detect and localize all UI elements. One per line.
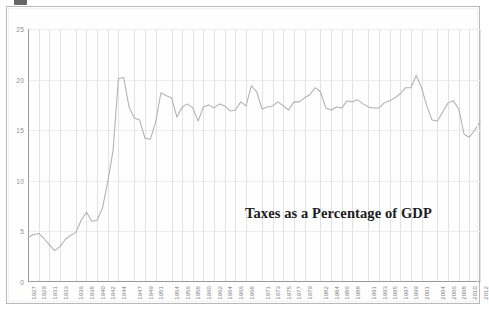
- x-tick-label: 1979: [307, 286, 313, 300]
- y-tick-label: 5: [20, 228, 24, 235]
- x-tick-label: 1958: [195, 286, 201, 300]
- x-tick-label: 1929: [41, 286, 47, 300]
- x-tick-label: 1988: [355, 286, 361, 300]
- x-tick-label: 1947: [137, 286, 143, 300]
- x-tick-label: 1942: [110, 286, 116, 300]
- data-series-line: [28, 29, 480, 282]
- x-tick-label: 1954: [174, 286, 180, 300]
- chart-figure: 0510152025 19271929193119331936193819401…: [0, 0, 489, 311]
- x-tick-label: 2012: [483, 286, 489, 300]
- x-tick-label: 1984: [334, 286, 340, 300]
- x-tick-label: 2006: [451, 286, 457, 300]
- y-tick-label: 10: [16, 177, 24, 184]
- x-tick-label: 1964: [227, 286, 233, 300]
- gridline-vertical: [480, 29, 481, 282]
- y-tick-label: 20: [16, 76, 24, 83]
- x-tick-label: 1931: [52, 286, 58, 300]
- series-path: [28, 76, 480, 251]
- y-tick-label: 25: [16, 26, 24, 33]
- x-tick-label: 1956: [185, 286, 191, 300]
- y-tick-label: 0: [20, 279, 24, 286]
- x-tick-label: 1949: [148, 286, 154, 300]
- x-tick-label: 1971: [265, 286, 271, 300]
- chart-frame: 0510152025 19271929193119331936193819401…: [6, 6, 480, 304]
- x-tick-label: 2008: [461, 286, 467, 300]
- x-tick-label: 1927: [31, 286, 37, 300]
- x-tick-label: 1951: [158, 286, 164, 300]
- scan-artifact: [14, 0, 27, 5]
- x-tick-label: 1936: [78, 286, 84, 300]
- x-tick-label: 2004: [440, 286, 446, 300]
- x-tick-label: 1933: [63, 286, 69, 300]
- x-tick-label: 1966: [238, 286, 244, 300]
- x-tick-label: 2010: [472, 286, 478, 300]
- x-tick-label: 1973: [275, 286, 281, 300]
- x-tick-label: 1977: [296, 286, 302, 300]
- x-tick-label: 2001: [424, 286, 430, 300]
- x-tick-label: 1940: [100, 286, 106, 300]
- plot-area: 0510152025 19271929193119331936193819401…: [28, 29, 480, 282]
- x-tick-label: 1962: [217, 286, 223, 300]
- chart-annotation-title: Taxes as a Percentage of GDP: [245, 205, 432, 222]
- x-tick-label: 1982: [323, 286, 329, 300]
- x-tick-label: 1997: [403, 286, 409, 300]
- x-tick-label: 1938: [89, 286, 95, 300]
- x-tick-label: 1975: [286, 286, 292, 300]
- x-tick-label: 1960: [206, 286, 212, 300]
- x-tick-label: 1991: [371, 286, 377, 300]
- x-tick-label: 1999: [413, 286, 419, 300]
- x-tick-label: 1993: [382, 286, 388, 300]
- y-tick-label: 15: [16, 127, 24, 134]
- x-tick-label: 1944: [121, 286, 127, 300]
- x-tick-label: 1986: [344, 286, 350, 300]
- x-tick-label: 1968: [249, 286, 255, 300]
- x-tick-label: 1995: [392, 286, 398, 300]
